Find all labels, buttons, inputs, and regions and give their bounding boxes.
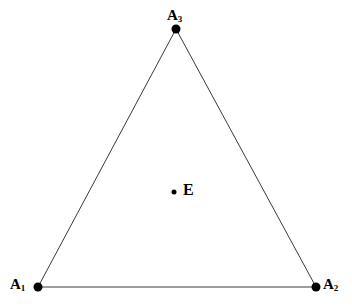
vertex-label-a3-base: A [167, 7, 178, 23]
triangle-diagram: A3 A1 A2 E [0, 0, 352, 307]
vertex-label-a1-subscript: 1 [21, 283, 26, 293]
diagram-canvas [0, 0, 352, 307]
triangle-outline [38, 29, 316, 287]
point-label-e: E [183, 182, 194, 198]
vertex-label-a3: A3 [167, 8, 182, 23]
vertex-label-a2: A2 [323, 277, 338, 292]
vertex-point-a3 [172, 25, 181, 34]
vertex-label-a3-subscript: 3 [178, 14, 183, 24]
vertex-label-a2-subscript: 2 [334, 283, 339, 293]
vertex-point-a2 [312, 283, 321, 292]
vertex-label-a1: A1 [10, 277, 25, 292]
vertex-point-a1 [34, 283, 43, 292]
vertex-label-a2-base: A [323, 276, 334, 292]
interior-point-e [172, 190, 177, 195]
vertex-label-a1-base: A [10, 276, 21, 292]
